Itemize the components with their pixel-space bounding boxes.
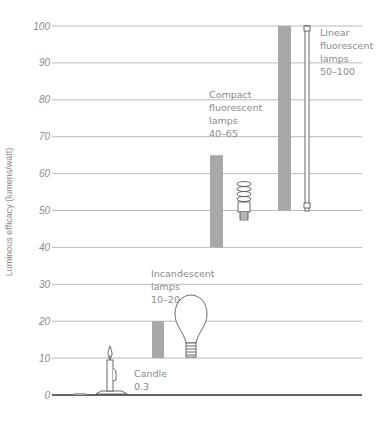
bar-linear-fluorescent-lamps	[278, 26, 291, 211]
y-tick-label: 10	[39, 353, 51, 364]
annotation-label: lamps	[209, 115, 238, 126]
gridlines	[52, 26, 362, 395]
y-axis-ticks: 0102030405060708090100	[33, 21, 50, 401]
y-tick-label: 60	[39, 168, 51, 179]
luminous-efficacy-chart: 0102030405060708090100 Luminous efficacy…	[0, 0, 378, 423]
y-tick-label: 0	[44, 390, 50, 401]
candle-icon	[96, 346, 127, 394]
bar-candle	[74, 393, 86, 395]
annotation-label: Candle	[134, 368, 167, 379]
y-tick-label: 70	[39, 131, 51, 142]
bar-incandescent-lamps	[152, 321, 164, 358]
annotation-label: 50–100	[320, 66, 355, 77]
annotation-label: 0.3	[134, 381, 149, 392]
y-tick-label: 80	[39, 94, 51, 105]
y-tick-label: 50	[39, 205, 51, 216]
y-tick-label: 30	[39, 279, 51, 290]
y-tick-label: 100	[33, 21, 50, 32]
annotation-label: lamps	[151, 281, 180, 292]
y-tick-label: 20	[38, 316, 51, 327]
annotation-label: 40–65	[209, 128, 238, 139]
annotation-label: lamps	[320, 53, 349, 64]
annotations: Candle0.3Incandescentlamps10–20Compactfl…	[134, 27, 373, 392]
y-axis-title: Luminous efficacy (lumens/watt)	[4, 148, 14, 276]
annotation-label: fluorescent	[320, 40, 373, 51]
annotation-label: 10–20	[151, 294, 180, 305]
y-tick-label: 90	[39, 57, 51, 68]
linear-fluorescent-tube-icon	[304, 26, 310, 211]
annotation-label: Incandescent	[151, 268, 215, 279]
compact-fluorescent-bulb-icon	[237, 182, 251, 221]
annotation-label: Compact	[209, 89, 252, 100]
annotation-label: fluorescent	[209, 102, 262, 113]
y-tick-label: 40	[39, 242, 51, 253]
annotation-label: Linear	[320, 27, 350, 38]
incandescent-bulb-icon	[175, 295, 207, 357]
bar-compact-fluorescent-lamps	[210, 155, 223, 247]
